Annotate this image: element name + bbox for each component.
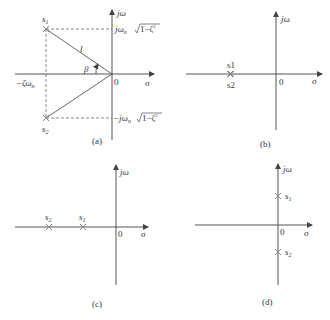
origin-label: 0 bbox=[114, 77, 119, 87]
s1-label: s1 bbox=[42, 14, 49, 25]
caption-a: (a) bbox=[92, 136, 102, 146]
s1-label: s1 bbox=[79, 212, 86, 223]
angle-label: β bbox=[83, 64, 89, 74]
lower-imag-label: −jωn 1−ζ2 bbox=[113, 113, 162, 124]
svg-text:jωn: jωn bbox=[114, 24, 127, 35]
real-part-label: −ζωn bbox=[16, 78, 35, 89]
sigma-label: σ bbox=[141, 229, 146, 239]
length-label: l bbox=[80, 44, 83, 54]
jomega-label: jω bbox=[119, 167, 129, 177]
jomega-label: jω bbox=[116, 8, 126, 18]
s1-label: s1 bbox=[285, 191, 292, 202]
s1-label: s1 bbox=[227, 60, 235, 70]
pole-diagrams: s1 s2 −ζωn l β 0 σ jω jωn 1−ζ2 −jωn 1−ζ2… bbox=[0, 0, 330, 320]
upper-imag-label: jωn 1−ζ2 bbox=[114, 24, 160, 35]
svg-text:1−ζ2: 1−ζ2 bbox=[142, 113, 158, 123]
jomega-label: jω bbox=[280, 14, 290, 24]
origin-label: 0 bbox=[280, 227, 285, 237]
sigma-label: σ bbox=[312, 76, 317, 86]
angle-arc bbox=[96, 64, 98, 74]
origin-label: 0 bbox=[279, 77, 284, 87]
origin-label: 0 bbox=[118, 229, 123, 239]
s2-label: s2 bbox=[42, 124, 49, 135]
caption-c: (c) bbox=[92, 299, 102, 309]
s2-label: s2 bbox=[227, 80, 235, 90]
s2-label: s2 bbox=[285, 247, 292, 258]
sigma-label: σ bbox=[145, 78, 150, 88]
s2-label: s2 bbox=[45, 212, 52, 223]
vector-s1 bbox=[46, 29, 112, 74]
panel-b: s1 s2 0 σ jω (b) bbox=[186, 12, 322, 149]
svg-text:−jωn: −jωn bbox=[113, 113, 131, 124]
panel-d: s1 s2 0 σ jω (d) bbox=[195, 164, 312, 307]
caption-d: (d) bbox=[262, 297, 273, 307]
vector-s2 bbox=[46, 74, 112, 118]
caption-b: (b) bbox=[260, 139, 271, 149]
panel-c: s2 s1 0 σ jω (c) bbox=[15, 165, 148, 309]
sigma-label: σ bbox=[304, 228, 309, 238]
jomega-label: jω bbox=[282, 164, 292, 174]
svg-text:1−ζ2: 1−ζ2 bbox=[140, 24, 156, 34]
panel-a: s1 s2 −ζωn l β 0 σ jω jωn 1−ζ2 −jωn 1−ζ2… bbox=[15, 8, 162, 146]
